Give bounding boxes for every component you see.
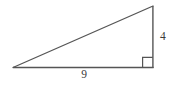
height-length-label: 4 (160, 31, 174, 43)
right-angle-square-icon (143, 57, 153, 67)
triangle-figure: 9 4 (0, 0, 176, 86)
hypotenuse-line (13, 6, 153, 68)
base-length-label: 9 (0, 69, 168, 81)
